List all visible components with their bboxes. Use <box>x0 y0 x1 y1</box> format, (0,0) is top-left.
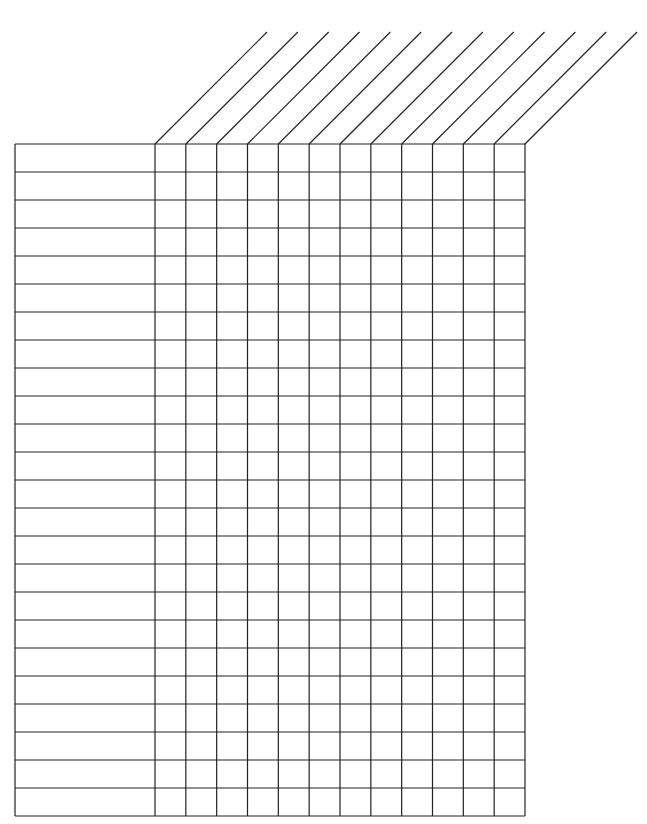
check-cell[interactable] <box>494 172 525 200</box>
check-cell[interactable] <box>278 424 309 452</box>
check-cell[interactable] <box>155 648 186 676</box>
check-cell[interactable] <box>371 480 402 508</box>
check-cell[interactable] <box>155 144 186 172</box>
check-cell[interactable] <box>402 620 433 648</box>
check-cell[interactable] <box>494 284 525 312</box>
check-cell[interactable] <box>371 788 402 816</box>
check-cell[interactable] <box>248 284 279 312</box>
check-cell[interactable] <box>402 788 433 816</box>
check-cell[interactable] <box>309 172 340 200</box>
row-label-cell[interactable] <box>15 424 155 452</box>
check-cell[interactable] <box>186 256 217 284</box>
check-cell[interactable] <box>402 368 433 396</box>
check-cell[interactable] <box>371 312 402 340</box>
check-cell[interactable] <box>371 732 402 760</box>
check-cell[interactable] <box>309 480 340 508</box>
check-cell[interactable] <box>155 228 186 256</box>
check-cell[interactable] <box>402 424 433 452</box>
check-cell[interactable] <box>402 564 433 592</box>
check-cell[interactable] <box>248 564 279 592</box>
check-cell[interactable] <box>186 564 217 592</box>
check-cell[interactable] <box>186 368 217 396</box>
check-cell[interactable] <box>278 564 309 592</box>
row-label-cell[interactable] <box>15 676 155 704</box>
check-cell[interactable] <box>309 508 340 536</box>
check-cell[interactable] <box>309 704 340 732</box>
check-cell[interactable] <box>494 648 525 676</box>
check-cell[interactable] <box>402 592 433 620</box>
check-cell[interactable] <box>340 676 371 704</box>
check-cell[interactable] <box>186 228 217 256</box>
check-cell[interactable] <box>278 312 309 340</box>
row-label-cell[interactable] <box>15 452 155 480</box>
check-cell[interactable] <box>155 256 186 284</box>
check-cell[interactable] <box>371 284 402 312</box>
check-cell[interactable] <box>340 760 371 788</box>
check-cell[interactable] <box>371 424 402 452</box>
check-cell[interactable] <box>248 256 279 284</box>
check-cell[interactable] <box>309 592 340 620</box>
check-cell[interactable] <box>402 172 433 200</box>
check-cell[interactable] <box>278 536 309 564</box>
check-cell[interactable] <box>217 620 248 648</box>
check-cell[interactable] <box>494 368 525 396</box>
check-cell[interactable] <box>186 620 217 648</box>
check-cell[interactable] <box>494 564 525 592</box>
check-cell[interactable] <box>248 704 279 732</box>
check-cell[interactable] <box>248 788 279 816</box>
check-cell[interactable] <box>463 480 494 508</box>
check-cell[interactable] <box>217 704 248 732</box>
check-cell[interactable] <box>402 732 433 760</box>
check-cell[interactable] <box>463 676 494 704</box>
row-label-cell[interactable] <box>15 508 155 536</box>
check-cell[interactable] <box>402 480 433 508</box>
check-cell[interactable] <box>248 396 279 424</box>
check-cell[interactable] <box>463 620 494 648</box>
check-cell[interactable] <box>278 368 309 396</box>
check-cell[interactable] <box>340 284 371 312</box>
check-cell[interactable] <box>371 760 402 788</box>
check-cell[interactable] <box>217 760 248 788</box>
check-cell[interactable] <box>155 424 186 452</box>
check-cell[interactable] <box>371 144 402 172</box>
check-cell[interactable] <box>278 144 309 172</box>
check-cell[interactable] <box>433 508 464 536</box>
check-cell[interactable] <box>309 228 340 256</box>
check-cell[interactable] <box>278 172 309 200</box>
check-cell[interactable] <box>463 564 494 592</box>
check-cell[interactable] <box>278 480 309 508</box>
check-cell[interactable] <box>309 200 340 228</box>
check-cell[interactable] <box>248 592 279 620</box>
check-cell[interactable] <box>309 732 340 760</box>
check-cell[interactable] <box>402 284 433 312</box>
check-cell[interactable] <box>371 536 402 564</box>
check-cell[interactable] <box>402 676 433 704</box>
check-cell[interactable] <box>155 396 186 424</box>
check-cell[interactable] <box>340 564 371 592</box>
check-cell[interactable] <box>340 620 371 648</box>
check-cell[interactable] <box>155 508 186 536</box>
check-cell[interactable] <box>463 732 494 760</box>
check-cell[interactable] <box>217 452 248 480</box>
check-cell[interactable] <box>309 312 340 340</box>
check-cell[interactable] <box>248 480 279 508</box>
check-cell[interactable] <box>217 284 248 312</box>
check-cell[interactable] <box>402 452 433 480</box>
row-label-cell[interactable] <box>15 200 155 228</box>
check-cell[interactable] <box>340 340 371 368</box>
check-cell[interactable] <box>402 396 433 424</box>
check-cell[interactable] <box>309 564 340 592</box>
row-label-cell[interactable] <box>15 732 155 760</box>
row-label-cell[interactable] <box>15 760 155 788</box>
check-cell[interactable] <box>340 144 371 172</box>
check-cell[interactable] <box>186 200 217 228</box>
check-cell[interactable] <box>463 228 494 256</box>
check-cell[interactable] <box>278 452 309 480</box>
row-label-cell[interactable] <box>15 480 155 508</box>
check-cell[interactable] <box>402 704 433 732</box>
check-cell[interactable] <box>155 480 186 508</box>
check-cell[interactable] <box>463 200 494 228</box>
check-cell[interactable] <box>186 284 217 312</box>
check-cell[interactable] <box>463 536 494 564</box>
row-label-cell[interactable] <box>15 396 155 424</box>
